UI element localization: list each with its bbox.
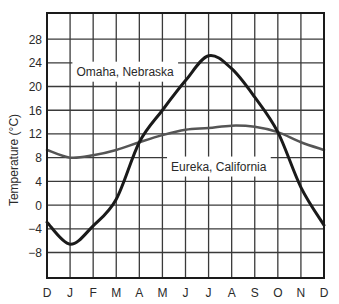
x-tick-label: D: [320, 286, 329, 300]
y-tick-label: 20: [29, 80, 43, 94]
x-tick-label: O: [273, 286, 282, 300]
y-axis-ticks: −8−40481216202428: [28, 33, 42, 260]
y-tick-label: 28: [29, 33, 43, 47]
x-tick-label: J: [183, 286, 189, 300]
x-tick-label: N: [297, 286, 306, 300]
series-annotation: Eureka, California: [171, 160, 267, 174]
temperature-chart: −8−40481216202428 DJFMAMJJASOND Temperat…: [0, 0, 339, 304]
y-tick-label: −4: [28, 222, 42, 236]
x-tick-label: J: [206, 286, 212, 300]
x-tick-label: J: [67, 286, 73, 300]
x-tick-label: M: [157, 286, 167, 300]
x-tick-label: M: [111, 286, 121, 300]
x-tick-label: A: [135, 286, 143, 300]
y-tick-label: 12: [29, 127, 43, 141]
y-tick-label: −8: [28, 246, 42, 260]
y-axis-label: Temperature (°C): [7, 114, 21, 206]
x-tick-label: F: [89, 286, 96, 300]
y-tick-label: 8: [35, 151, 42, 165]
y-tick-label: 0: [35, 199, 42, 213]
y-tick-label: 16: [29, 104, 43, 118]
x-tick-label: S: [251, 286, 259, 300]
y-tick-label: 4: [35, 175, 42, 189]
x-tick-label: D: [43, 286, 52, 300]
series-annotation: Omaha, Nebraska: [76, 65, 174, 79]
x-axis-ticks: DJFMAMJJASOND: [43, 286, 329, 300]
y-tick-label: 24: [29, 56, 43, 70]
x-tick-label: A: [228, 286, 236, 300]
